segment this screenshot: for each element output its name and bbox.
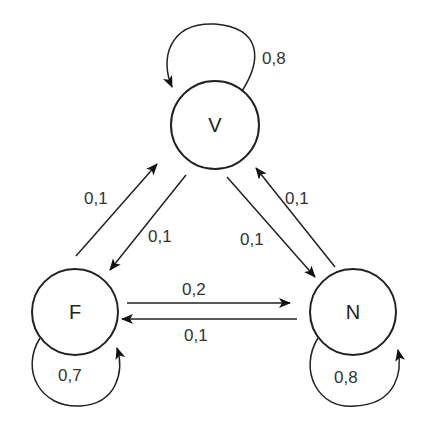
edge-n-f: 0,1 — [122, 319, 297, 345]
edge-f-v-label: 0,1 — [84, 189, 108, 208]
node-n: N — [310, 269, 396, 355]
edge-v-n-label: 0,1 — [240, 230, 264, 249]
node-f-label: F — [69, 301, 81, 323]
edge-v-f: 0,1 — [110, 175, 186, 270]
edge-v-v-label: 0,8 — [262, 49, 286, 68]
node-v-label: V — [208, 114, 222, 136]
edge-n-f-label: 0,1 — [184, 326, 208, 345]
edge-f-f-label: 0,7 — [58, 366, 82, 385]
edge-n-v-label: 0,1 — [285, 189, 309, 208]
edge-v-f-label: 0,1 — [148, 227, 172, 246]
edge-f-f: 0,7 — [32, 338, 119, 406]
edge-n-n-label: 0,8 — [334, 368, 358, 387]
edge-f-n-label: 0,2 — [182, 280, 206, 299]
edge-n-n: 0,8 — [310, 338, 399, 406]
edge-f-v: 0,1 — [76, 164, 157, 256]
node-v: V — [171, 81, 259, 169]
node-f: F — [32, 269, 118, 355]
node-n-label: N — [346, 301, 360, 323]
edge-v-v: 0,8 — [167, 24, 286, 91]
edge-f-n: 0,2 — [127, 280, 290, 303]
markov-diagram: V F N 0,8 0,1 0,1 0,1 0,1 0,2 0,1 — [0, 0, 425, 441]
edge-n-v: 0,1 — [256, 168, 335, 267]
